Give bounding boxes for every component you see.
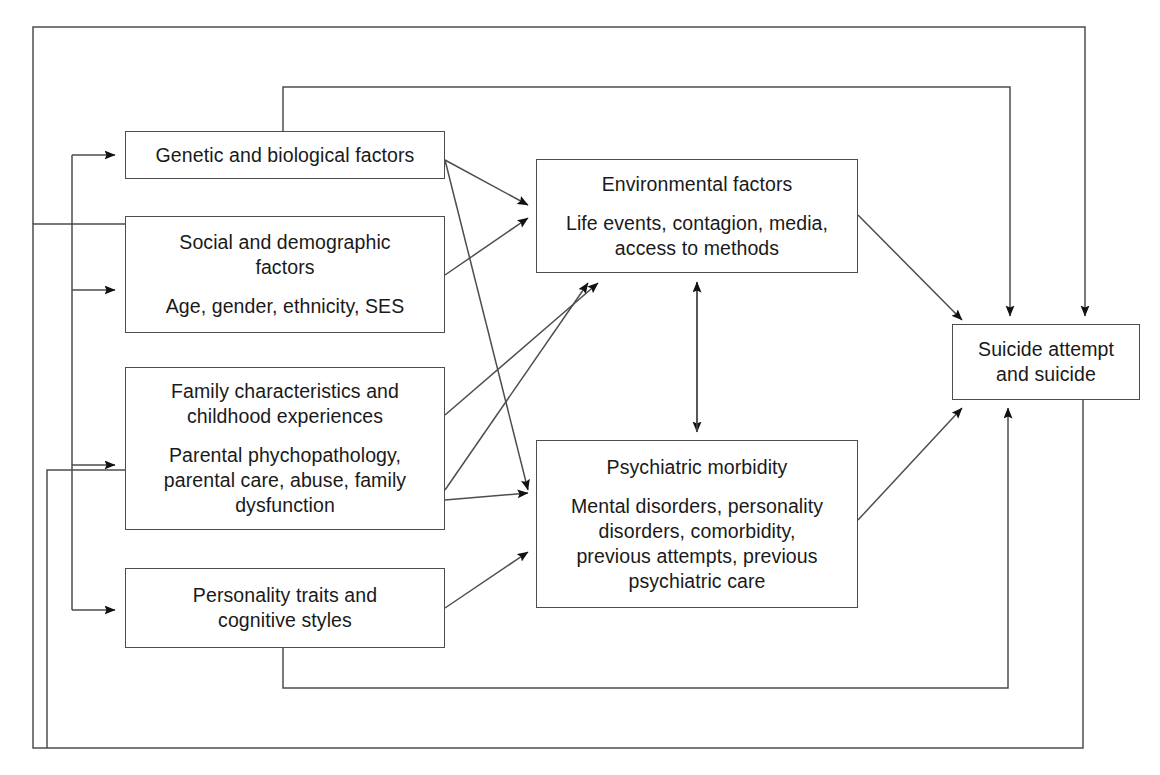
node-detail: Age, gender, ethnicity, SES xyxy=(166,294,405,319)
node-social-and-demographic-factors: Social and demographic factorsAge, gende… xyxy=(125,216,445,333)
edge-psychiatric-to-outcome xyxy=(858,408,962,520)
node-detail: Mental disorders, personality disorders,… xyxy=(571,494,823,594)
node-title: Genetic and biological factors xyxy=(156,143,415,168)
node-detail: Parental phychopathology, parental care,… xyxy=(164,443,406,518)
node-suicide-attempt-and-suicide: Suicide attempt and suicide xyxy=(952,324,1140,400)
edge-personality-to-psychiatric xyxy=(445,552,528,608)
node-title: Suicide attempt and suicide xyxy=(978,337,1114,387)
diagram-canvas: Genetic and biological factorsSocial and… xyxy=(0,0,1160,775)
node-title: Social and demographic factors xyxy=(179,230,390,280)
edge-family-upper-to-environmental xyxy=(445,283,598,415)
edge-family-to-psychiatric xyxy=(445,493,528,500)
node-genetic-and-biological-factors: Genetic and biological factors xyxy=(125,131,445,179)
node-title: Environmental factors xyxy=(602,172,793,197)
edge-environmental-to-outcome xyxy=(858,215,962,320)
node-title: Family characteristics and childhood exp… xyxy=(171,379,399,429)
node-family-characteristics-and-childhood-experiences: Family characteristics and childhood exp… xyxy=(125,367,445,530)
edge-social-to-environmental xyxy=(445,218,528,275)
feedback-outcome-to-family xyxy=(47,470,125,748)
node-title: Psychiatric morbidity xyxy=(607,455,788,480)
edge-genetic-to-environmental xyxy=(445,160,528,205)
node-personality-traits-and-cognitive-styles: Personality traits and cognitive styles xyxy=(125,568,445,648)
node-detail: Life events, contagion, media, access to… xyxy=(566,211,828,261)
feedback-rail-left-boxes xyxy=(72,155,115,610)
edge-genetic-to-psychiatric xyxy=(445,160,528,490)
node-environmental-factors: Environmental factorsLife events, contag… xyxy=(536,159,858,273)
node-psychiatric-morbidity: Psychiatric morbidityMental disorders, p… xyxy=(536,440,858,608)
node-title: Personality traits and cognitive styles xyxy=(193,583,377,633)
